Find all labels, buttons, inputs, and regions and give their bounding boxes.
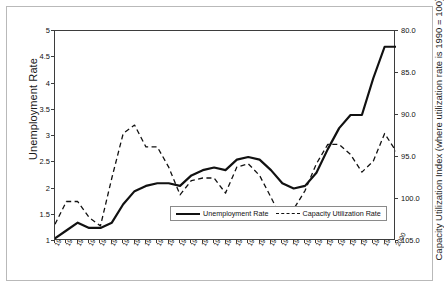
y-axis-left-tick-label: 3.5 [27,104,50,113]
y-axis-left-tick-label: 3 [27,131,50,140]
y-axis-right-title: Capacity Utilization Index (where utiliz… [433,1,444,261]
figure-border: Unemployment Rate Capacity Utilization I… [6,6,433,281]
y-axis-left-tick-label: 4.5 [27,52,50,61]
y-axis-left-tick-label: 2 [27,183,50,192]
legend-label: Capacity Utilization Rate [303,209,381,218]
y-axis-left-tick-label: 2.5 [27,157,50,166]
y-axis-right-tick-label: 90.0 [401,110,416,119]
y-axis-right-tick-label: 85.0 [401,68,416,77]
y-axis-left-tick-label: 5 [27,26,50,35]
chart-legend: Unemployment RateCapacity Utilization Ra… [170,206,387,221]
y-axis-right-tick-label: 95.0 [401,152,416,161]
y-axis-right-tick-label: 100.0 [401,194,420,203]
y-axis-left-tick-label: 4 [27,78,50,87]
y-axis-left-tick-label: 1 [27,236,50,245]
y-axis-left-tick-label: 1.5 [27,209,50,218]
legend-entry: Capacity Utilization Rate [276,209,381,218]
legend-label: Unemployment Rate [203,209,269,218]
legend-swatch-dashed-icon [276,210,300,218]
legend-swatch-solid-icon [176,210,200,218]
legend-entry: Unemployment Rate [176,209,269,218]
y-axis-right-tick-label: 80.0 [401,26,416,35]
